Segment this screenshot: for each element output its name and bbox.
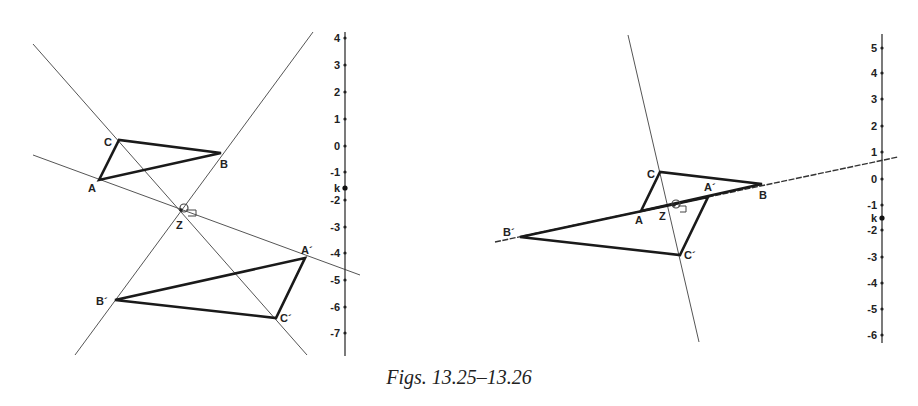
svg-text:-3: -3 xyxy=(867,251,877,263)
svg-text:-6: -6 xyxy=(867,329,877,341)
number-axis-right: 5 4 3 2 1 0 -1 -2 -3 -4 -5 -6 k xyxy=(867,34,884,343)
svg-text:5: 5 xyxy=(871,42,877,54)
label-a: A xyxy=(88,182,96,194)
label-a-prime: A´ xyxy=(704,181,716,193)
svg-text:-1: -1 xyxy=(867,199,877,211)
label-a-prime: A´ xyxy=(301,244,313,256)
svg-text:2: 2 xyxy=(871,120,877,132)
k-label: k xyxy=(334,182,341,194)
svg-text:1: 1 xyxy=(871,146,877,158)
point-z xyxy=(179,208,183,212)
k-label: k xyxy=(871,212,878,224)
number-axis-left: 4 3 2 1 0 -1 -2 -3 -4 -5 -6 -7 k xyxy=(330,32,347,356)
svg-text:-3: -3 xyxy=(330,221,340,233)
svg-text:-4: -4 xyxy=(867,277,878,289)
svg-text:-6: -6 xyxy=(330,301,340,313)
axis-ticks: 5 4 3 2 1 0 -1 -2 -3 -4 -5 -6 xyxy=(867,42,883,341)
line-b-z-b-prime xyxy=(75,32,313,355)
label-b-prime: B´ xyxy=(503,226,515,238)
svg-text:4: 4 xyxy=(871,67,878,79)
label-c-prime: C´ xyxy=(280,312,292,324)
label-b: B xyxy=(220,158,228,170)
svg-text:-4: -4 xyxy=(330,247,341,259)
k-marker-icon xyxy=(342,185,347,190)
triangle-abc xyxy=(99,140,221,180)
diagram-canvas: C B A Z A´ B´ C´ 4 3 2 1 0 -1 -2 -3 -4 -… xyxy=(0,0,918,406)
svg-text:-5: -5 xyxy=(330,274,340,286)
line-c-z-c-prime xyxy=(628,35,699,342)
figure-13-25: C B A Z A´ B´ C´ 4 3 2 1 0 -1 -2 -3 -4 -… xyxy=(33,32,360,356)
line-c-z-c-prime xyxy=(33,44,307,355)
svg-text:-2: -2 xyxy=(867,224,877,236)
label-z: Z xyxy=(176,219,183,231)
label-c: C xyxy=(647,168,655,180)
svg-text:-2: -2 xyxy=(330,194,340,206)
k-marker-icon xyxy=(879,215,884,220)
svg-text:-5: -5 xyxy=(867,303,877,315)
svg-text:-1: -1 xyxy=(330,166,340,178)
svg-text:1: 1 xyxy=(334,113,340,125)
label-c: C xyxy=(104,136,112,148)
label-z: Z xyxy=(659,210,666,222)
svg-text:0: 0 xyxy=(871,173,877,185)
triangle-abc xyxy=(641,172,762,211)
label-a: A xyxy=(635,214,643,226)
label-c-prime: C´ xyxy=(684,249,696,261)
label-b: B xyxy=(759,189,767,201)
svg-text:2: 2 xyxy=(334,86,340,98)
figure-13-26: C B A Z A´ B´ C´ 5 4 3 2 1 0 -1 -2 -3 -4… xyxy=(495,34,898,343)
figure-caption: Figs. 13.25–13.26 xyxy=(0,366,918,389)
svg-text:4: 4 xyxy=(334,32,341,44)
svg-text:3: 3 xyxy=(334,59,340,71)
triangle-abc-prime xyxy=(115,258,305,318)
svg-text:-7: -7 xyxy=(330,327,340,339)
svg-text:3: 3 xyxy=(871,93,877,105)
label-b-prime: B´ xyxy=(96,295,108,307)
point-z xyxy=(672,203,676,207)
svg-text:0: 0 xyxy=(334,140,340,152)
